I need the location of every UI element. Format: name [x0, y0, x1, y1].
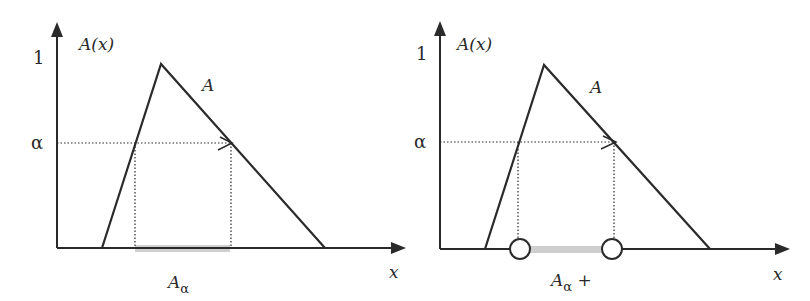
panel-strong-alpha-cut: 1 α A(x) A x Aα +	[414, 21, 790, 294]
cut-label-suffix: +	[572, 270, 592, 290]
x-axis-arrow-icon	[391, 242, 406, 254]
set-label: A	[200, 75, 214, 95]
cut-label-main: A	[549, 270, 563, 290]
y-axis-label: A(x)	[455, 34, 492, 54]
cut-label: Aα	[166, 272, 189, 296]
panel-alpha-cut: 1 α A(x) A x Aα	[31, 22, 406, 296]
cut-label-sub: α	[563, 279, 572, 294]
x-axis-label: x	[773, 264, 783, 284]
set-label: A	[588, 77, 602, 97]
y-tick-one: 1	[33, 47, 44, 68]
y-tick-one: 1	[416, 43, 427, 64]
y-axis-arrow-icon	[434, 21, 446, 36]
open-endpoint-right-icon	[602, 239, 622, 259]
cut-label-sub: α	[180, 281, 189, 296]
alpha-cut-figure: 1 α A(x) A x Aα 1 α A(x) A x Aα +	[0, 0, 810, 301]
y-tick-alpha: α	[414, 131, 426, 152]
x-axis-label: x	[389, 262, 399, 282]
x-axis-arrow-icon	[775, 243, 790, 255]
strong-alpha-cut-interval-bar	[520, 246, 612, 253]
cut-label-main: A	[166, 272, 180, 292]
y-axis-label: A(x)	[77, 34, 114, 54]
cut-label: Aα +	[549, 270, 592, 294]
open-endpoint-left-icon	[510, 239, 530, 259]
y-axis-arrow-icon	[51, 22, 63, 37]
y-tick-alpha: α	[31, 132, 43, 153]
